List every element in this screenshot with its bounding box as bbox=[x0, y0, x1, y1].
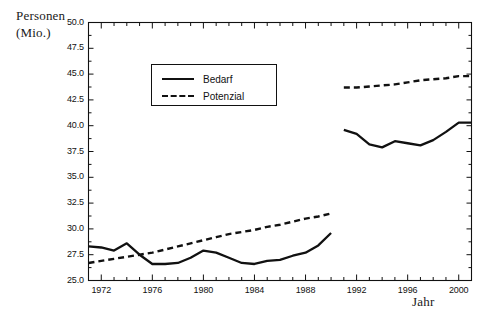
legend-item-bedarf[interactable]: Bedarf bbox=[162, 72, 232, 86]
legend-line-sample-dashed-icon bbox=[162, 90, 194, 102]
chart-figure: Personen (Mio.) Jahr 50.047.545.042.540.… bbox=[0, 0, 502, 325]
series-potenzial-reunified-germany bbox=[344, 76, 472, 87]
chart-legend: BedarfPotenzial bbox=[151, 64, 277, 106]
series-bedarf-reunified-germany bbox=[344, 123, 472, 148]
legend-item-label: Potenzial bbox=[203, 91, 244, 102]
legend-item-potenzial[interactable]: Potenzial bbox=[162, 89, 244, 103]
plot-frame bbox=[89, 23, 472, 281]
legend-line-sample-solid-icon bbox=[162, 73, 194, 85]
plot-area bbox=[0, 0, 502, 325]
legend-item-label: Bedarf bbox=[203, 74, 232, 85]
